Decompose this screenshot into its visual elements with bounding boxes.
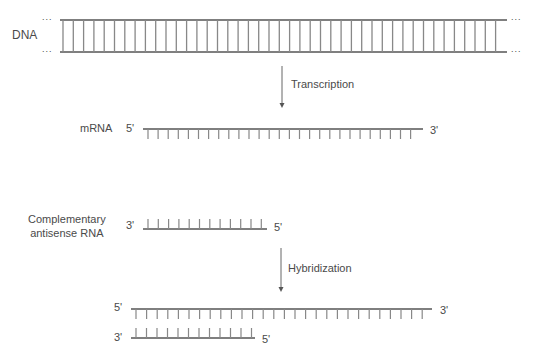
mrna-strand [143, 129, 423, 139]
antisense-label-line2: antisense RNA [28, 226, 106, 240]
hybrid-top-3prime: 3' [440, 304, 448, 316]
antisense-label-line1: Complementary [28, 212, 106, 226]
antisense-3prime: 3' [126, 219, 134, 231]
dna-ellipsis-bottom-left: ... [42, 44, 53, 54]
hybrid-bottom-5prime: 5' [262, 333, 270, 345]
transcription-label: Transcription [291, 78, 354, 90]
antisense-label: Complementary antisense RNA [28, 212, 106, 240]
dna-ellipsis-bottom-right: ... [511, 44, 522, 54]
hybridization-label: Hybridization [288, 262, 352, 274]
hybrid-bottom-3prime: 3' [114, 331, 122, 343]
antisense-5prime: 5' [274, 221, 282, 233]
dna-label: DNA [12, 28, 37, 42]
dna-ellipsis-top-right: ... [511, 12, 522, 22]
dna-double-strand [60, 20, 507, 52]
mrna-label: mRNA [80, 122, 112, 134]
mrna-5prime: 5' [126, 122, 134, 134]
process-arrows [279, 66, 285, 292]
mrna-3prime: 3' [430, 124, 438, 136]
diagram-canvas [0, 0, 543, 359]
hybrid-top-5prime: 5' [114, 301, 122, 313]
antisense-strand [143, 219, 267, 229]
hybrid-duplex [131, 309, 432, 338]
dna-ellipsis-top-left: ... [42, 12, 53, 22]
